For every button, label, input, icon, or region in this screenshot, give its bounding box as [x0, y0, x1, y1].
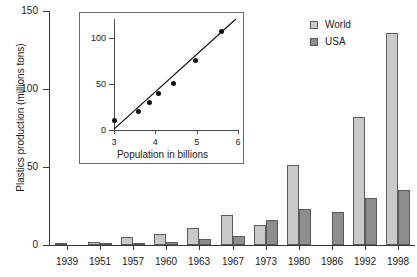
bar-world-1951[interactable] — [88, 242, 100, 245]
bar-world-1998[interactable] — [386, 33, 398, 245]
inset-data-point[interactable] — [112, 118, 117, 123]
bar-usa-1973[interactable] — [266, 220, 278, 245]
bar-usa-1980[interactable] — [299, 209, 311, 245]
plastics-production-figure: Plastics production (millions tons) 0501… — [0, 0, 417, 277]
y-tick-label-wrap: 150 — [10, 6, 43, 16]
x-tick-mark — [166, 245, 167, 250]
y-tick-mark — [43, 167, 49, 168]
x-tick-mark — [133, 245, 134, 250]
y-tick-label: 100 — [10, 84, 38, 94]
y-tick-mark — [43, 11, 49, 12]
bar-usa-1967[interactable] — [233, 236, 245, 245]
x-tick-mark — [100, 245, 101, 250]
bar-usa-1951[interactable] — [100, 243, 112, 245]
y-tick-label-wrap: 100 — [10, 84, 43, 94]
x-tick-mark — [199, 245, 200, 250]
legend-label-usa: USA — [325, 37, 346, 47]
main-y-axis-title: Plastics production (millions tons) — [15, 18, 26, 218]
y-tick-label-wrap: 0 — [10, 240, 43, 250]
bar-usa-1998[interactable] — [398, 190, 410, 245]
y-tick-label: 150 — [10, 6, 38, 16]
bar-world-1992[interactable] — [353, 117, 365, 245]
legend: World USA — [310, 18, 351, 52]
inset-scatter-plot: 050100 3456 Population in billions — [79, 12, 244, 164]
y-tick-mark — [43, 245, 49, 246]
y-tick-label: 0 — [10, 240, 38, 250]
legend-item-world[interactable]: World — [310, 18, 351, 32]
y-tick-mark — [43, 89, 49, 90]
x-tick-mark — [332, 245, 333, 250]
x-tick-label: 1998 — [375, 256, 417, 267]
bar-world-1957[interactable] — [121, 237, 133, 245]
bar-world-1963[interactable] — [187, 228, 199, 245]
legend-item-usa[interactable]: USA — [310, 35, 351, 49]
bar-world-1980[interactable] — [287, 165, 299, 245]
main-x-axis — [49, 245, 415, 246]
bar-usa-1986[interactable] — [332, 212, 344, 245]
bar-usa-1963[interactable] — [199, 239, 211, 245]
x-tick-mark — [398, 245, 399, 250]
y-tick-label-wrap: 50 — [10, 162, 43, 172]
x-tick-mark — [299, 245, 300, 250]
bar-world-1960[interactable] — [154, 234, 166, 245]
x-tick-mark — [233, 245, 234, 250]
legend-swatch-usa-icon — [310, 38, 318, 46]
bar-world-1939[interactable] — [55, 243, 67, 245]
x-tick-mark — [365, 245, 366, 250]
inset-data-point[interactable] — [219, 29, 224, 34]
y-tick-label: 50 — [10, 162, 38, 172]
bar-usa-1960[interactable] — [166, 242, 178, 245]
legend-swatch-world-icon — [310, 21, 318, 29]
inset-fit-line — [80, 13, 245, 165]
x-tick-mark — [67, 245, 68, 250]
bar-world-1967[interactable] — [221, 215, 233, 245]
legend-label-world: World — [325, 20, 351, 30]
inset-x-axis-title: Population in billions — [80, 149, 245, 160]
x-tick-mark — [266, 245, 267, 250]
bar-world-1973[interactable] — [254, 225, 266, 245]
bar-usa-1992[interactable] — [365, 198, 377, 245]
bar-usa-1957[interactable] — [133, 243, 145, 245]
